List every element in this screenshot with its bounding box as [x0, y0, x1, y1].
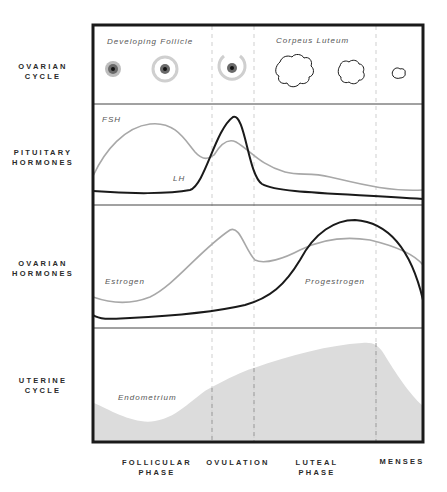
- row-label-ovarian-cycle: OVARIANCYCLE: [0, 62, 86, 82]
- endometrium-area: [94, 343, 422, 441]
- phase-label-follicular: FOLLICULARPHASE: [112, 458, 202, 478]
- row-label-pituitary-hormones: PITUITARYHORMONES: [0, 148, 86, 168]
- corpus-luteum-icons: [276, 54, 405, 86]
- row-label-ovarian-hormones: OVARIANHORMONES: [0, 259, 86, 279]
- estrogen-curve: [93, 229, 423, 302]
- developing-follicle-label: Developing Follicle: [107, 37, 193, 46]
- corpus-luteum-label: Corpeus Luteum: [276, 36, 349, 45]
- section-dividers: [93, 104, 423, 328]
- lh-label: LH: [173, 174, 185, 183]
- phase-label-menses: MENSES: [372, 457, 432, 467]
- progesterone-label: Progestrogen: [305, 277, 365, 286]
- phase-label-luteal: LUTEALPHASE: [285, 458, 349, 478]
- estrogen-label: Estrogen: [105, 277, 145, 286]
- progesterone-curve: [93, 220, 423, 319]
- row-label-uterine-cycle: UTERINECYCLE: [0, 376, 86, 396]
- endometrium-label: Endometrium: [118, 393, 177, 402]
- fsh-label: FSH: [102, 115, 121, 124]
- phase-label-ovulation: OVULATION: [198, 458, 278, 468]
- follicle-icons: [105, 56, 245, 81]
